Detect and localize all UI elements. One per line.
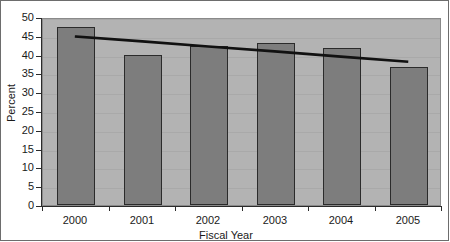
x-axis-tick-label: 2005 xyxy=(378,214,438,226)
x-axis-tick xyxy=(375,206,376,211)
y-axis-tick-label: 10 xyxy=(4,162,34,173)
x-axis-tick-label: 2003 xyxy=(245,214,305,226)
y-axis-tick xyxy=(36,168,41,169)
x-axis-tick-label: 2002 xyxy=(178,214,238,226)
x-axis-tick xyxy=(242,206,243,211)
y-axis-tick-label: 50 xyxy=(4,12,34,23)
chart-screenshot: 05101520253035404550 2000200120022003200… xyxy=(0,0,450,242)
y-axis-tick xyxy=(36,187,41,188)
y-axis-title: Percent xyxy=(5,58,17,148)
x-axis-tick-label: 2001 xyxy=(112,214,172,226)
y-axis-tick-label: 5 xyxy=(4,181,34,192)
y-axis-tick-label: 0 xyxy=(4,200,34,211)
x-axis-tick-label: 2000 xyxy=(45,214,105,226)
x-axis-tick xyxy=(308,206,309,211)
x-axis-tick xyxy=(109,206,110,211)
trend-line xyxy=(76,37,407,62)
y-axis-tick xyxy=(36,37,41,38)
y-axis-tick xyxy=(36,18,41,19)
y-axis-tick xyxy=(36,112,41,113)
y-axis-tick xyxy=(36,93,41,94)
y-axis-tick xyxy=(36,206,41,207)
x-axis-tick-label: 2004 xyxy=(311,214,371,226)
y-axis-tick xyxy=(36,74,41,75)
chart-frame: 05101520253035404550 2000200120022003200… xyxy=(0,0,449,241)
plot-area xyxy=(42,18,441,206)
x-axis-line xyxy=(41,206,441,207)
y-axis-tick-label: 45 xyxy=(4,31,34,42)
y-axis-tick xyxy=(36,150,41,151)
x-axis-tick xyxy=(42,206,43,211)
y-axis-line xyxy=(41,18,42,206)
x-axis-tick xyxy=(441,206,442,211)
y-axis-tick xyxy=(36,131,41,132)
x-axis-tick xyxy=(175,206,176,211)
trend-line-svg xyxy=(43,19,440,205)
y-axis-tick xyxy=(36,56,41,57)
x-axis-title: Fiscal Year xyxy=(1,229,450,241)
